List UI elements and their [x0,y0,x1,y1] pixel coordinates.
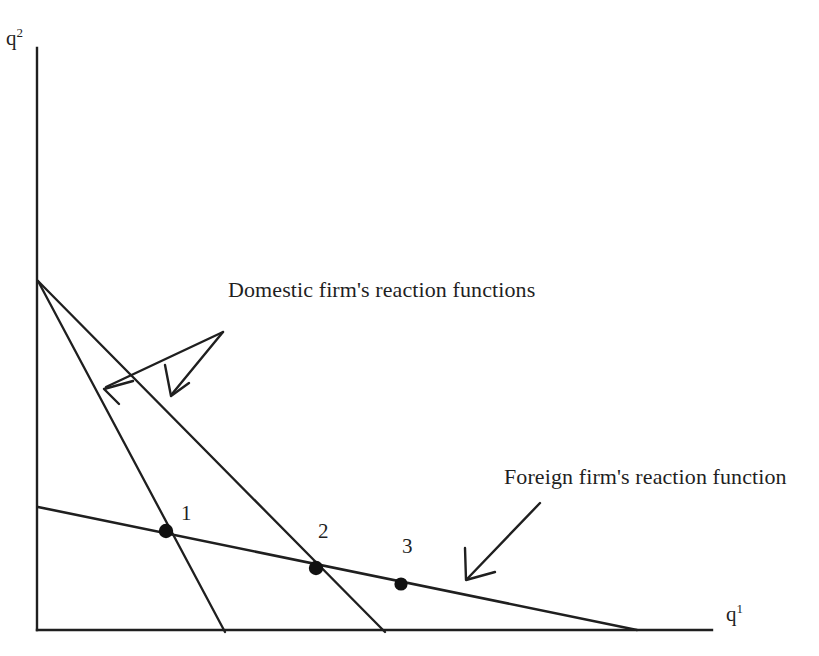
domestic-reaction-line-inner [38,281,225,632]
x-axis-label-base: q [726,602,737,626]
domestic-reaction-line-outer [38,281,385,632]
equilibrium-point-1 [159,524,173,538]
point-label-3: 3 [402,536,413,557]
domestic-arrow-left-icon [104,332,223,404]
x-axis-label: q1 [726,604,743,625]
foreign-arrow-icon [465,503,540,580]
domestic-reaction-annotation: Domestic firm's reaction functions [228,279,535,301]
y-axis-label: q2 [6,28,23,49]
axes-group [37,48,712,630]
domestic-arrow-right-icon [165,332,223,396]
equilibrium-point-3 [394,577,407,590]
foreign-reaction-line [38,507,637,630]
y-axis-label-base: q [6,26,17,50]
reaction-lines-group [38,281,637,632]
reaction-functions-figure: q2 q1 Domestic firm's reaction functions… [0,0,819,656]
point-label-2: 2 [318,521,329,542]
point-label-1: 1 [181,503,192,524]
y-axis-label-superscript: 2 [17,25,24,40]
foreign-reaction-annotation: Foreign firm's reaction function [504,466,787,488]
equilibrium-point-2 [309,561,323,575]
x-axis-label-superscript: 1 [737,601,744,616]
